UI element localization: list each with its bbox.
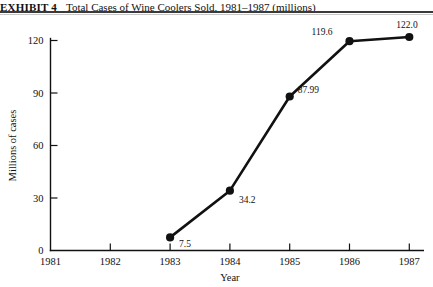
x-tick-label: 1984 [219, 256, 241, 267]
x-tick-label: 1981 [40, 256, 61, 267]
data-point-value-label: 122.0 [396, 20, 418, 30]
data-point-marker [226, 187, 234, 195]
line-chart-plot: 0306090120 1981198219831984198519861987 … [0, 0, 433, 287]
x-tick-label: 1985 [279, 256, 300, 267]
y-axis-title: Millions of cases [7, 110, 18, 182]
data-point-value-label: 7.5 [179, 239, 191, 249]
y-tick-label: 30 [33, 193, 44, 204]
x-axis: 1981198219831984198519861987 [40, 244, 423, 268]
y-tick-label: 60 [33, 140, 44, 151]
data-point-value-label: 34.2 [239, 195, 256, 205]
y-tick-label: 120 [28, 35, 44, 46]
x-tick-label: 1986 [339, 256, 360, 267]
y-tick-label: 0 [38, 245, 43, 256]
y-axis: 0306090120 [28, 35, 58, 256]
x-axis-title: Year [220, 272, 240, 283]
data-point-marker [286, 92, 294, 100]
data-point-value-label: 87.99 [298, 85, 320, 95]
data-point-marker [405, 33, 413, 41]
x-tick-label: 1982 [100, 256, 121, 267]
y-tick-label: 90 [33, 88, 44, 99]
data-series-line [170, 37, 409, 237]
data-point-marker [166, 233, 174, 241]
data-point-marker [345, 37, 353, 45]
data-point-labels: 7.534.287.99119.6122.0 [179, 20, 418, 249]
data-point-value-label: 119.6 [312, 27, 333, 37]
exhibit-figure: EXHIBIT 4Total Cases of Wine Coolers Sol… [0, 0, 433, 287]
x-tick-label: 1983 [160, 256, 181, 267]
x-tick-label: 1987 [399, 256, 420, 267]
